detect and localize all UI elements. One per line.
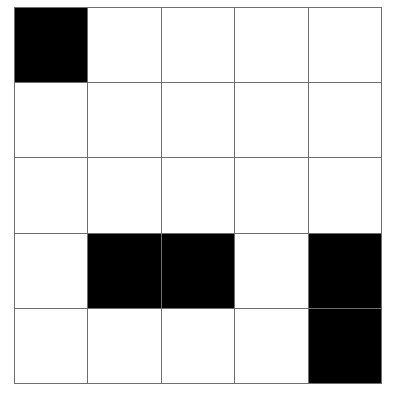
grid-cell-r3-c3[interactable] [235, 234, 308, 309]
grid-cell-r0-c4[interactable] [309, 8, 382, 83]
grid-cell-r4-c4[interactable] [309, 309, 382, 384]
grid-cell-r4-c1[interactable] [88, 309, 161, 384]
grid-cell-r1-c2[interactable] [162, 83, 235, 158]
grid-cell-r0-c3[interactable] [235, 8, 308, 83]
grid-cell-r2-c0[interactable] [15, 158, 88, 233]
grid-cell-r4-c0[interactable] [15, 309, 88, 384]
grid-cell-r2-c4[interactable] [309, 158, 382, 233]
grid-cell-r1-c1[interactable] [88, 83, 161, 158]
grid-cell-r2-c1[interactable] [88, 158, 161, 233]
grid-cell-r0-c1[interactable] [88, 8, 161, 83]
grid-cell-r3-c0[interactable] [15, 234, 88, 309]
grid-cell-r1-c3[interactable] [235, 83, 308, 158]
grid-cell-r2-c3[interactable] [235, 158, 308, 233]
grid-cell-r0-c2[interactable] [162, 8, 235, 83]
grid-cell-r1-c4[interactable] [309, 83, 382, 158]
grid-cell-r4-c2[interactable] [162, 309, 235, 384]
grid-cell-r0-c0[interactable] [15, 8, 88, 83]
game-grid [14, 7, 382, 384]
grid-cell-r2-c2[interactable] [162, 158, 235, 233]
grid-cell-r3-c1[interactable] [88, 234, 161, 309]
grid-cell-r4-c3[interactable] [235, 309, 308, 384]
grid-cell-r3-c4[interactable] [309, 234, 382, 309]
grid-cell-r3-c2[interactable] [162, 234, 235, 309]
grid-cell-r1-c0[interactable] [15, 83, 88, 158]
